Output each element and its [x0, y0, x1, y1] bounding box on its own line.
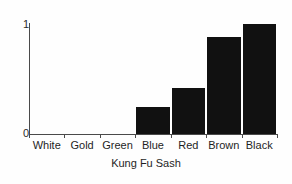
bar-slot — [64, 24, 99, 134]
bar-slot — [242, 24, 277, 134]
x-axis-label: Black — [242, 138, 277, 152]
y-axis-tick-label-top: 1 — [5, 19, 29, 30]
bar-slot — [206, 24, 241, 134]
x-axis-tick — [277, 135, 278, 138]
x-axis-label: Gold — [64, 138, 99, 152]
bar[interactable] — [171, 88, 206, 134]
bar[interactable] — [135, 107, 170, 135]
x-axis-category-labels: WhiteGoldGreenBlueRedBrownBlack — [29, 138, 277, 152]
bars-layer — [29, 24, 277, 134]
bar-slot — [29, 24, 64, 134]
plot-area — [29, 24, 277, 134]
bar-slot — [135, 24, 170, 134]
bar-chart-figure: 1 0 WhiteGoldGreenBlueRedBrownBlack Kung… — [0, 0, 292, 184]
x-axis-label: Red — [171, 138, 206, 152]
bar[interactable] — [242, 24, 277, 134]
x-axis-title: Kung Fu Sash — [0, 157, 292, 170]
x-axis-label: White — [29, 138, 64, 152]
bar[interactable] — [206, 37, 241, 134]
x-axis-label: Green — [100, 138, 135, 152]
y-axis-tick-label-bottom: 0 — [5, 128, 29, 139]
bar-slot — [100, 24, 135, 134]
x-axis-label: Brown — [206, 138, 241, 152]
x-axis-label: Blue — [135, 138, 170, 152]
bar-slot — [171, 24, 206, 134]
